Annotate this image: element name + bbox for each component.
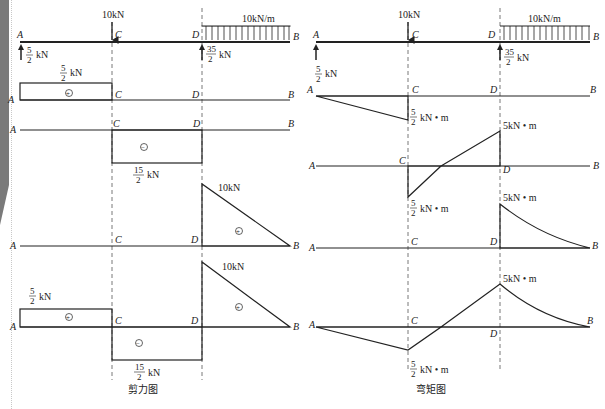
bmd3-D-label: 5kN • m (503, 192, 537, 203)
svg-text:B: B (293, 240, 299, 251)
reaction-A-label: kN (36, 49, 48, 60)
svg-text:5: 5 (61, 63, 66, 73)
svg-text:C: C (399, 155, 406, 166)
svg-text:B: B (593, 160, 599, 171)
sfd3-sign: + (236, 228, 240, 236)
svg-text:15: 15 (135, 362, 145, 372)
reaction-D-label-right: kN (517, 52, 529, 63)
svg-text:B: B (288, 89, 294, 100)
svg-text:2: 2 (411, 117, 416, 127)
svg-text:+: + (236, 304, 240, 312)
svg-text:D: D (487, 29, 496, 40)
shear-panel: 10kN 10kN/m A C D B 5 2 (7, 8, 299, 395)
bmd-total-C-label: kN • m (420, 364, 449, 375)
svg-text:C: C (412, 29, 419, 40)
loading-beam-right: 10kN 10kN/m A C D B 5 2 kN (312, 9, 599, 84)
reaction-D-label: kN (219, 49, 231, 60)
svg-text:2: 2 (316, 74, 321, 84)
point-C-label: C (115, 29, 122, 40)
moment-diagram-2: 5kN • m 5 2 kN • m A C D B (308, 120, 599, 218)
svg-text:A: A (9, 124, 17, 135)
distributed-load-label-right: 10kN/m (528, 13, 561, 24)
svg-text:2: 2 (30, 296, 35, 306)
svg-text:D: D (190, 234, 199, 245)
shear-diagram-2: − 15 2 kN A C D B (9, 118, 294, 185)
svg-text:2: 2 (506, 57, 511, 67)
svg-text:2: 2 (208, 54, 213, 64)
point-B-label: B (293, 31, 299, 42)
svg-text:5: 5 (411, 107, 416, 117)
shear-diagram-total: 5 2 kN + − + 10kN 15 2 kN A C D B (9, 261, 299, 382)
bmd2-D-label: 5kN • m (503, 120, 537, 131)
svg-text:D: D (191, 89, 200, 100)
svg-text:2: 2 (27, 55, 32, 65)
distributed-load-label: 10kN/m (242, 13, 275, 24)
svg-text:2: 2 (411, 369, 416, 379)
svg-text:A: A (308, 160, 316, 171)
bmd1-value-label: kN • m (420, 112, 449, 123)
svg-text:2: 2 (411, 208, 416, 218)
moment-diagram-1: 5 2 kN • m A C D B (306, 84, 596, 127)
svg-text:5: 5 (27, 45, 32, 55)
distributed-load-arrows-icon (206, 26, 289, 40)
svg-text:B: B (592, 240, 598, 251)
svg-text:D: D (489, 328, 498, 339)
sfd2-sign: − (141, 144, 145, 152)
point-D-label: D (191, 29, 200, 40)
svg-text:+: + (66, 314, 70, 322)
svg-text:A: A (306, 84, 314, 95)
svg-text:B: B (288, 118, 294, 129)
svg-text:5: 5 (411, 198, 416, 208)
point-A-label: A (16, 29, 24, 40)
svg-text:C: C (115, 315, 122, 326)
loading-beam-left: 10kN 10kN/m A C D B 5 2 (16, 9, 299, 65)
svg-text:5: 5 (411, 359, 416, 369)
sfd2-value-label: kN (147, 169, 159, 180)
svg-text:A: A (308, 319, 316, 330)
svg-text:D: D (502, 164, 511, 175)
shear-diagram-caption: 剪力图 (128, 383, 158, 395)
svg-text:B: B (587, 315, 593, 326)
moment-diagram-total: 5kN • m 5 2 kN • m A C D B (308, 273, 593, 379)
sfd-total-DB-label: 10kN (222, 261, 244, 272)
bmd-total-D-label: 5kN • m (503, 273, 537, 284)
svg-text:A: A (308, 242, 316, 253)
sfd1-value-label: kN (70, 67, 82, 78)
svg-text:D: D (190, 315, 199, 326)
svg-text:A: A (7, 94, 15, 105)
svg-text:C: C (411, 315, 418, 326)
svg-text:C: C (115, 89, 122, 100)
svg-text:2: 2 (61, 73, 66, 83)
point-load-label: 10kN (102, 9, 124, 20)
svg-text:B: B (293, 321, 299, 332)
svg-text:2: 2 (137, 372, 142, 382)
bmd2-C-label: kN • m (420, 203, 449, 214)
sfd-total-AC-label: kN (39, 291, 51, 302)
distributed-load-arrows-icon-right (504, 26, 589, 40)
sfd-total-CD-label: kN (148, 367, 160, 378)
moment-diagram-caption: 弯矩图 (416, 383, 446, 395)
svg-text:A: A (9, 321, 17, 332)
sfd1-sign: + (66, 90, 70, 98)
svg-text:C: C (411, 236, 418, 247)
svg-text:5: 5 (30, 286, 35, 296)
svg-text:B: B (590, 84, 596, 95)
svg-text:D: D (192, 118, 201, 129)
svg-text:A: A (312, 29, 320, 40)
svg-text:35: 35 (207, 44, 217, 54)
reaction-A-label-right: kN (325, 68, 337, 79)
moment-diagram-3: 5kN • m A C D B (308, 192, 598, 253)
moment-panel: 10kN 10kN/m A C D B 5 2 kN (306, 8, 599, 395)
svg-text:15: 15 (134, 165, 144, 175)
svg-text:5: 5 (316, 64, 321, 74)
svg-text:A: A (9, 240, 17, 251)
svg-text:−: − (136, 340, 140, 348)
svg-text:35: 35 (505, 47, 515, 57)
svg-text:2: 2 (136, 175, 141, 185)
svg-text:C: C (412, 84, 419, 95)
beam-diagram: 10kN 10kN/m A C D B 5 2 (0, 0, 605, 409)
svg-text:D: D (489, 84, 498, 95)
shear-diagram-3: 10kN + A C D B (9, 182, 299, 251)
shear-diagram-1: 5 2 kN + A C D B (7, 63, 294, 105)
svg-text:B: B (593, 31, 599, 42)
